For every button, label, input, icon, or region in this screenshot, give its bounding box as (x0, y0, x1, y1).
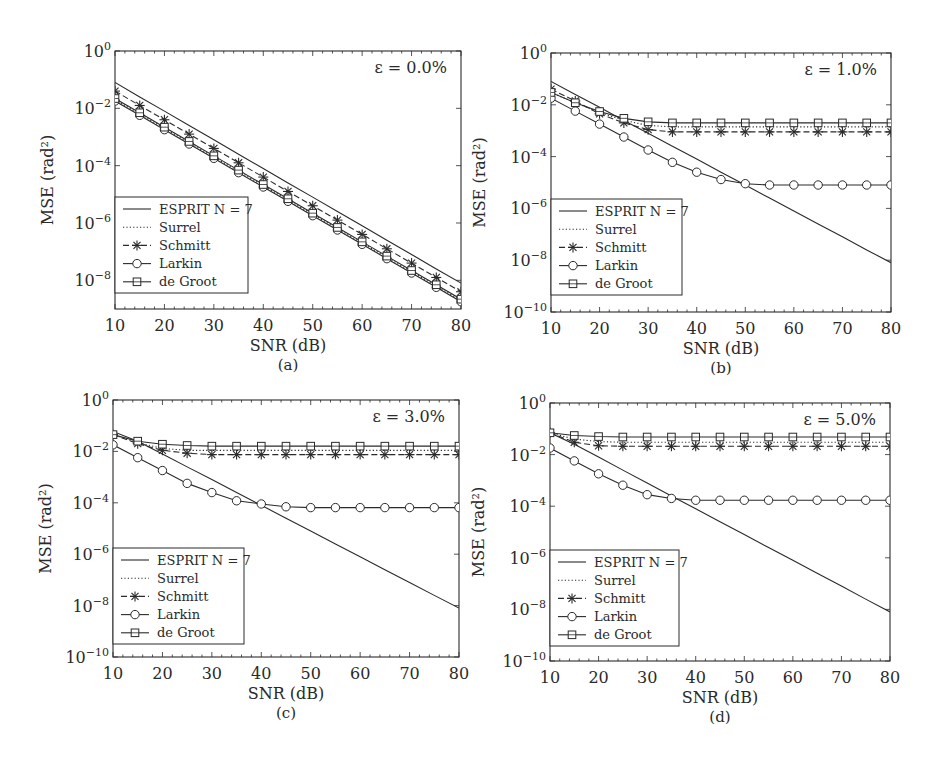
y-tick-label: 10−8 (510, 249, 547, 270)
asterisk-marker (330, 450, 340, 460)
circle-marker (133, 259, 141, 267)
y-tick-label: 10−6 (510, 197, 547, 218)
epsilon-annotation: ε = 5.0% (803, 410, 876, 429)
circle-marker (131, 610, 139, 618)
circle-marker (356, 503, 364, 511)
asterisk-marker (862, 127, 872, 137)
legend-label: Larkin (157, 607, 201, 622)
legend-label: Schmitt (594, 591, 646, 606)
asterisk-marker (130, 591, 140, 601)
circle-marker (667, 494, 675, 502)
epsilon-annotation: ε = 3.0% (372, 407, 445, 426)
asterisk-marker (861, 441, 871, 451)
x-tick-label: 20 (589, 319, 609, 338)
asterisk-marker (812, 441, 822, 451)
x-tick-label: 10 (103, 664, 123, 683)
circle-marker (282, 503, 290, 511)
legend-label: Larkin (594, 609, 638, 624)
circle-marker (455, 503, 463, 511)
x-tick-label: 80 (880, 668, 900, 687)
circle-marker (813, 496, 821, 504)
asterisk-marker (232, 450, 242, 460)
legend-label: de Groot (595, 276, 653, 291)
x-tick-label: 50 (303, 316, 323, 335)
y-tick-label: 10−2 (72, 440, 109, 461)
legend-label: Surrel (594, 573, 636, 588)
asterisk-marker (788, 441, 798, 451)
x-tick-label: 30 (638, 319, 658, 338)
x-tick-label: 60 (784, 319, 804, 338)
x-tick-label: 60 (783, 668, 803, 687)
circle-marker (594, 470, 602, 478)
asterisk-marker (132, 240, 142, 250)
subplot-b: 102030405060708010010−210−410−610−810−10… (470, 42, 901, 377)
x-tick-label: 60 (350, 664, 370, 683)
circle-marker (620, 133, 628, 141)
circle-marker (740, 496, 748, 504)
circle-marker (381, 503, 389, 511)
x-tick-label: 10 (541, 319, 561, 338)
x-tick-label: 20 (154, 316, 174, 335)
asterisk-marker (667, 127, 677, 137)
y-tick-label: 10−6 (72, 543, 109, 564)
legend-label: Schmitt (159, 238, 211, 253)
x-tick-label: 40 (687, 319, 707, 338)
circle-marker (619, 481, 627, 489)
asterisk-marker (429, 450, 439, 460)
x-tick-label: 70 (831, 668, 851, 687)
y-tick-label: 10−4 (509, 495, 546, 516)
circle-marker (570, 457, 578, 465)
circle-marker (307, 503, 315, 511)
asterisk-marker (692, 127, 702, 137)
asterisk-marker (836, 441, 846, 451)
x-tick-label: 80 (451, 316, 471, 335)
asterisk-marker (256, 450, 266, 460)
asterisk-marker (885, 441, 895, 451)
asterisk-marker (594, 441, 604, 451)
y-tick-label: 10−2 (510, 94, 547, 115)
x-tick-label: 70 (399, 664, 419, 683)
legend-label: de Groot (157, 625, 215, 640)
x-tick-label: 20 (152, 664, 172, 683)
legend-label: de Groot (159, 274, 217, 289)
legend-label: Surrel (159, 220, 201, 235)
circle-marker (595, 120, 603, 128)
asterisk-marker (568, 242, 578, 252)
y-axis-label: MSE (rad²) (470, 137, 489, 227)
x-axis-label: SNR (dB) (682, 688, 759, 707)
circle-marker (838, 181, 846, 189)
legend-label: Larkin (159, 256, 203, 271)
legend-label: de Groot (594, 627, 652, 642)
circle-marker (134, 453, 142, 461)
panel-caption: (b) (710, 359, 731, 377)
epsilon-annotation: ε = 0.0% (374, 58, 447, 77)
x-axis-label: SNR (dB) (250, 336, 327, 355)
x-tick-label: 50 (735, 319, 755, 338)
y-tick-label: 100 (84, 40, 111, 61)
asterisk-marker (207, 450, 217, 460)
circle-marker (668, 158, 676, 166)
x-tick-label: 50 (301, 664, 321, 683)
legend-label: ESPRIT N = 7 (159, 202, 253, 217)
circle-marker (837, 496, 845, 504)
legend-label: Surrel (595, 222, 637, 237)
circle-marker (886, 496, 894, 504)
x-tick-label: 40 (253, 316, 273, 335)
circle-marker (741, 179, 749, 187)
circle-marker (405, 503, 413, 511)
circle-marker (814, 181, 822, 189)
asterisk-marker (281, 450, 291, 460)
asterisk-marker (306, 450, 316, 460)
panel-caption: (a) (278, 356, 299, 374)
x-tick-label: 30 (202, 664, 222, 683)
y-tick-label: 10−6 (509, 547, 546, 568)
panel-caption: (d) (709, 708, 730, 726)
y-tick-label: 10−6 (74, 212, 111, 233)
asterisk-marker (380, 450, 390, 460)
circle-marker (717, 175, 725, 183)
circle-marker (569, 261, 577, 269)
legend: ESPRIT N = 7SurrelSchmittLarkinde Groot (550, 550, 688, 646)
figure-canvas: 102030405060708010010−210−410−610−8SNR (… (0, 0, 936, 768)
circle-marker (331, 503, 339, 511)
circle-marker (158, 466, 166, 474)
